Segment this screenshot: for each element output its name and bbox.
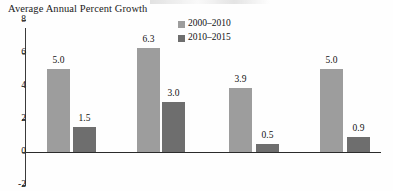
legend-item-label: 2010–2015 (188, 33, 231, 43)
legend-item: 2000–2010 (178, 18, 231, 30)
bar (229, 88, 252, 152)
bar (347, 137, 370, 152)
bar (256, 144, 279, 152)
bar-value-label: 0.5 (250, 131, 285, 141)
bar-value-label: 6.3 (131, 35, 166, 45)
bar-value-label: 3.9 (223, 75, 258, 85)
chart-container: Average Annual Percent Growth 86420-2 5.… (0, 0, 393, 191)
bar-value-label: 5.0 (314, 56, 349, 66)
bar (162, 102, 185, 152)
bar-value-label: 1.5 (67, 114, 102, 124)
legend-item-label: 2000–2010 (188, 19, 231, 29)
chart-legend: 2000–20102010–2015 (178, 18, 231, 46)
bar-value-label: 3.0 (156, 89, 191, 99)
legend-item: 2010–2015 (178, 32, 231, 44)
bar-value-label: 5.0 (41, 56, 76, 66)
legend-swatch-icon (178, 21, 185, 28)
bar (137, 48, 160, 152)
bar (47, 69, 70, 152)
bar (320, 69, 343, 152)
bar-value-label: 0.9 (341, 124, 376, 134)
legend-swatch-icon (178, 35, 185, 42)
bar (73, 127, 96, 152)
